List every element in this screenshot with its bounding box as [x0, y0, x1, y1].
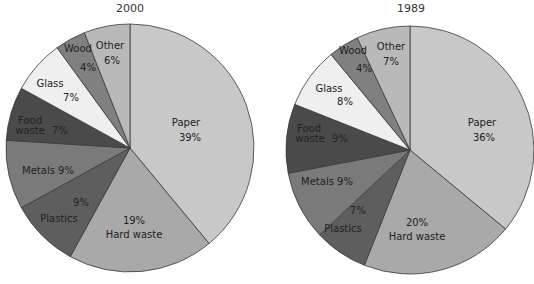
label-metals: Metals 9% — [301, 176, 353, 187]
label-metals: Metals 9% — [22, 165, 74, 176]
pie-chart-1989: 1989 Paper 36% 20% Hard waste 7% Plastic… — [286, 2, 534, 274]
label-hard-name: Hard waste — [389, 231, 446, 242]
label-plastics-name: Plastics — [324, 223, 362, 234]
label-wood-pct: 4% — [80, 62, 96, 73]
label-hard-pct: 19% — [123, 215, 145, 226]
label-glass-pct: 8% — [337, 96, 353, 107]
label-plastics-pct: 7% — [350, 205, 366, 216]
label-paper-name: Paper — [468, 117, 497, 128]
label-other-name: Other — [96, 40, 125, 51]
label-wood-name: Wood — [339, 45, 367, 56]
label-wood-name: Wood — [64, 43, 92, 54]
label-wood-pct: 4% — [356, 63, 372, 74]
label-plastics-name: Plastics — [40, 213, 78, 224]
label-other-pct: 6% — [104, 55, 120, 66]
label-paper-pct: 36% — [473, 132, 495, 143]
pie-charts: 2000 Paper 39% 19% Hard waste 9% Plastic… — [0, 0, 534, 284]
chart-title-1989: 1989 — [397, 2, 425, 15]
pie-chart-2000: 2000 Paper 39% 19% Hard waste 9% Plastic… — [6, 2, 254, 272]
label-hard-name: Hard waste — [106, 229, 163, 240]
label-glass-name: Glass — [315, 83, 342, 94]
chart-title-2000: 2000 — [116, 2, 144, 15]
label-food-pct: 9% — [332, 133, 348, 144]
label-food-pct: 7% — [52, 125, 68, 136]
label-other-name: Other — [377, 41, 406, 52]
label-paper-name: Paper — [172, 117, 201, 128]
label-other-pct: 7% — [383, 56, 399, 67]
label-glass-name: Glass — [36, 78, 63, 89]
label-food-name-2: waste — [295, 133, 325, 144]
label-food-name-2: waste — [15, 125, 45, 136]
label-paper-pct: 39% — [179, 132, 201, 143]
label-glass-pct: 7% — [63, 92, 79, 103]
label-plastics-pct: 9% — [73, 197, 89, 208]
label-hard-pct: 20% — [406, 217, 428, 228]
